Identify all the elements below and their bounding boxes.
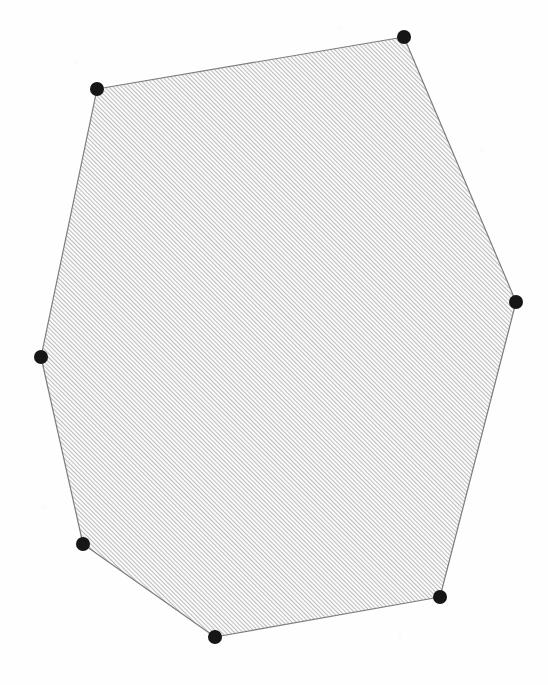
vertex-dot-left (34, 350, 48, 364)
vertex-dot-bottom-left (76, 537, 90, 551)
vertex-dot-top-right (397, 30, 411, 44)
vertex-dot-bottom-right (433, 590, 447, 604)
figure-canvas (0, 0, 548, 685)
vertex-dot-top-left (90, 82, 104, 96)
vertex-dot-bottom (208, 630, 222, 644)
vertex-dot-right (509, 295, 523, 309)
polygon-hatch-fill (41, 37, 516, 637)
polygon-figure (0, 0, 548, 685)
